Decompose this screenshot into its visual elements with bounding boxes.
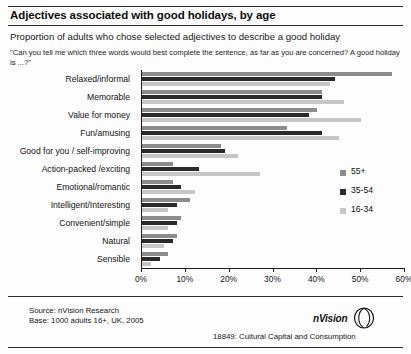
base-text: Base: 1000 adults 16+, UK, 2005 (29, 316, 144, 325)
bar-55+ (142, 108, 317, 112)
bar-1634 (142, 244, 164, 248)
category-label: Memorable (87, 92, 130, 102)
title-divider-top (8, 6, 403, 7)
legend-swatch-icon (340, 170, 346, 176)
bar-1634 (142, 82, 330, 86)
bar-3554 (142, 77, 335, 81)
legend-label: 35-54 (351, 185, 373, 195)
bar-3554 (142, 113, 309, 117)
bar-3554 (142, 167, 199, 171)
bar-55+ (142, 198, 190, 202)
page-title: Adjectives associated with good holidays… (10, 9, 400, 21)
bar-3554 (142, 95, 322, 99)
bar-1634 (142, 262, 151, 266)
x-tick-label: 10% (176, 274, 193, 284)
legend-swatch-icon (340, 208, 346, 214)
bar-1634 (142, 190, 195, 194)
category-label: Good for you / self-improving (20, 146, 130, 156)
category-label: Fun/amusing (80, 128, 130, 138)
x-tick-label: 60% (396, 274, 411, 284)
bar-55+ (142, 126, 287, 130)
bar-1634 (142, 100, 344, 104)
bar-3554 (142, 185, 181, 189)
brand-name: nVision (313, 313, 347, 324)
category-label: Relaxed/informal (66, 74, 130, 84)
x-tick-label: 30% (264, 274, 281, 284)
bar-1634 (142, 136, 339, 140)
x-tick (141, 268, 142, 272)
category-label: Intelligent/Interesting (51, 200, 130, 210)
x-tick (404, 268, 405, 272)
bar-3554 (142, 131, 322, 135)
x-tick (360, 268, 361, 272)
source-text: Source: nVision Research (29, 306, 119, 315)
legend-swatch-icon (340, 189, 346, 195)
x-tick-label: 50% (352, 274, 369, 284)
category-label: Value for money (68, 110, 130, 120)
x-tick (185, 268, 186, 272)
chart-subtitle: Proportion of adults who chose selected … (10, 31, 402, 42)
bar-1634 (142, 172, 260, 176)
category-label: Natural (102, 236, 130, 246)
nvision-logo-icon (353, 307, 375, 329)
bar-55+ (142, 252, 168, 256)
bar-1634 (142, 208, 168, 212)
bar-55+ (142, 216, 181, 220)
bar-55+ (142, 234, 177, 238)
category-label: Sensible (97, 254, 130, 264)
legend-label: 55+ (351, 166, 366, 176)
reference-text: 18849: Cultural Capital and Consumption (213, 332, 356, 341)
footer-divider-bottom (8, 347, 403, 348)
x-tick-label: 20% (220, 274, 237, 284)
chart-page: Adjectives associated with good holidays… (0, 0, 411, 354)
x-tick (316, 268, 317, 272)
bar-55+ (142, 180, 173, 184)
x-tick (229, 268, 230, 272)
bar-55+ (142, 72, 392, 76)
title-divider-bottom (8, 25, 403, 26)
bar-55+ (142, 90, 322, 94)
bar-1634 (142, 226, 168, 230)
bar-1634 (142, 154, 238, 158)
bar-1634 (142, 118, 361, 122)
bar-3554 (142, 221, 177, 225)
bar-3554 (142, 149, 225, 153)
x-tick (273, 268, 274, 272)
footer-divider-top (8, 296, 403, 297)
bar-55+ (142, 162, 173, 166)
survey-question: "Can you tell me which three words would… (10, 48, 402, 68)
bar-55+ (142, 144, 221, 148)
bar-3554 (142, 257, 160, 261)
x-tick-label: 0% (135, 274, 147, 284)
category-label: Action-packed /exciting (42, 164, 130, 174)
bar-3554 (142, 203, 177, 207)
category-label: Convenient/simple (59, 218, 130, 228)
x-tick-label: 40% (308, 274, 325, 284)
legend-label: 16-34 (351, 204, 373, 214)
bar-3554 (142, 239, 173, 243)
category-label: Emotional/romantic (56, 182, 130, 192)
